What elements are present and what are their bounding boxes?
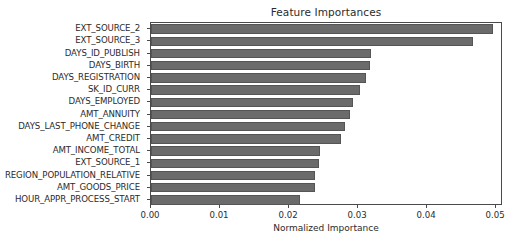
bar [151, 146, 320, 155]
bar-row [151, 24, 501, 33]
bar-row [151, 85, 501, 94]
y-axis-tick [147, 187, 150, 188]
bar [151, 122, 345, 131]
bar-row [151, 110, 501, 119]
y-axis-tick-label: DAYS_ID_PUBLISH [65, 48, 140, 58]
y-axis-tick-label: AMT_INCOME_TOTAL [53, 145, 140, 155]
bar [151, 159, 319, 168]
chart-title: Feature Importances [150, 6, 502, 18]
x-axis-tick [150, 205, 151, 208]
bar-row [151, 49, 501, 58]
bar [151, 183, 315, 192]
x-axis-tick-label: 0.00 [140, 210, 159, 220]
y-axis-tick [147, 28, 150, 29]
bar-series [151, 23, 501, 204]
bar-row [151, 195, 501, 204]
bar [151, 37, 473, 46]
bar [151, 98, 353, 107]
y-axis-tick [147, 175, 150, 176]
y-axis-tick [147, 126, 150, 127]
y-axis-tick-label: DAYS_LAST_PHONE_CHANGE [18, 121, 140, 131]
bar [151, 134, 341, 143]
bar-row [151, 183, 501, 192]
y-axis-tick [147, 40, 150, 41]
y-axis-tick-label: AMT_ANNUITY [80, 109, 140, 119]
x-axis-tick-label: 0.04 [417, 210, 436, 220]
bar-row [151, 98, 501, 107]
bar [151, 85, 360, 94]
y-axis-tick [147, 138, 150, 139]
bar-row [151, 171, 501, 180]
x-axis-tick-label: 0.05 [486, 210, 505, 220]
bar-row [151, 146, 501, 155]
bar [151, 171, 315, 180]
y-axis-tick-label: AMT_GOODS_PRICE [57, 182, 140, 192]
y-axis-tick-label: EXT_SOURCE_1 [75, 157, 140, 167]
y-axis-tick [147, 77, 150, 78]
x-axis-tick-label: 0.03 [347, 210, 366, 220]
bar-row [151, 61, 501, 70]
bar [151, 61, 370, 70]
y-axis-tick-label: HOUR_APPR_PROCESS_START [15, 194, 140, 204]
bar [151, 49, 371, 58]
bar-row [151, 73, 501, 82]
y-axis-tick-label: EXT_SOURCE_2 [75, 23, 140, 33]
x-axis-title: Normalized Importance [150, 223, 502, 233]
y-axis-tick [147, 101, 150, 102]
bar [151, 110, 350, 119]
y-axis-tick-label: AMT_CREDIT [86, 133, 140, 143]
x-axis-tick-label: 0.02 [278, 210, 297, 220]
bar-row [151, 134, 501, 143]
x-axis-tick [288, 205, 289, 208]
bar-row [151, 122, 501, 131]
y-axis-tick-label: DAYS_REGISTRATION [52, 72, 140, 82]
bar [151, 24, 493, 33]
plot-area [150, 22, 502, 205]
bar [151, 73, 366, 82]
bar-row [151, 37, 501, 46]
y-axis-tick-label: REGION_POPULATION_RELATIVE [5, 170, 140, 180]
bar-row [151, 159, 501, 168]
x-axis-tick [219, 205, 220, 208]
y-axis-tick [147, 162, 150, 163]
y-axis-tick [147, 53, 150, 54]
x-axis-tick [495, 205, 496, 208]
y-axis-tick-label: DAYS_BIRTH [89, 60, 140, 70]
y-axis-tick-label: SK_ID_CURR [88, 84, 140, 94]
y-axis-tick [147, 89, 150, 90]
feature-importances-figure: Feature Importances EXT_SOURCE_2EXT_SOUR… [0, 0, 521, 247]
y-axis-tick [147, 65, 150, 66]
y-axis-tick [147, 150, 150, 151]
x-axis-tick-label: 0.01 [209, 210, 228, 220]
x-axis-tick [357, 205, 358, 208]
x-axis-tick [426, 205, 427, 208]
y-axis-tick-label: DAYS_EMPLOYED [69, 96, 140, 106]
y-axis-tick-label: EXT_SOURCE_3 [75, 35, 140, 45]
y-axis-tick [147, 114, 150, 115]
y-axis-labels: EXT_SOURCE_2EXT_SOURCE_3DAYS_ID_PUBLISHD… [0, 22, 146, 205]
bar [151, 195, 300, 204]
y-axis-tick [147, 199, 150, 200]
